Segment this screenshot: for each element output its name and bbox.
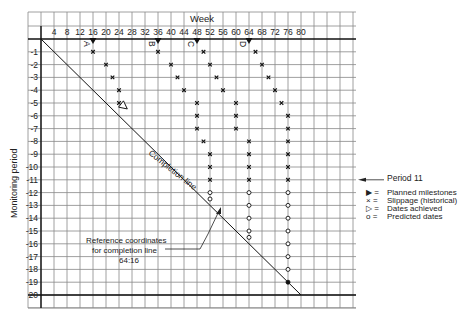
predicted-date-icon — [286, 255, 290, 259]
y-axis-title: Monitoring period — [9, 148, 19, 218]
reference-label-line3: 64:16 — [119, 256, 140, 265]
x-tick-label: 52 — [205, 27, 215, 37]
x-tick-label: 16 — [88, 27, 98, 37]
y-tick-label: -17 — [26, 252, 39, 262]
slip-chart: 48121620242832364044485256606468727680-1… — [0, 0, 473, 312]
x-tick-label: 28 — [127, 27, 137, 37]
legend-label-predicted: Predicted dates — [387, 212, 443, 221]
completion-point-icon — [286, 280, 290, 284]
y-tick-label: -11 — [26, 175, 38, 185]
legend-symbol-predicted: o = — [366, 212, 378, 221]
x-tick-label: 12 — [75, 27, 85, 37]
x-tick-label: 48 — [192, 27, 202, 37]
predicted-date-icon — [286, 203, 290, 207]
predicted-date-icon — [208, 191, 212, 195]
y-tick-label: -16 — [26, 239, 39, 249]
x-tick-label: 44 — [179, 27, 189, 37]
x-tick-label: 20 — [101, 27, 111, 37]
x-tick-label: 72 — [270, 27, 280, 37]
y-tick-label: -4 — [30, 85, 38, 95]
x-tick-label: 60 — [231, 27, 241, 37]
y-tick-label: -8 — [30, 136, 38, 146]
y-tick-label: 20 — [29, 290, 39, 300]
predicted-date-icon — [208, 197, 212, 201]
arrow-head-icon — [216, 207, 221, 214]
legend: ▶ = Planned milestones × = Slippage (his… — [366, 188, 458, 221]
milestone-letter: C — [186, 41, 196, 47]
x-tick-label: 24 — [114, 27, 124, 37]
predicted-date-icon — [286, 191, 290, 195]
y-tick-label: -10 — [26, 162, 39, 172]
predicted-date-icon — [247, 235, 251, 239]
x-tick-label: 80 — [296, 27, 306, 37]
reference-label-line2: for completion line — [92, 246, 157, 255]
predicted-date-icon — [286, 242, 290, 246]
x-tick-label: 8 — [65, 27, 70, 37]
x-tick-label: 32 — [140, 27, 150, 37]
x-tick-label: 4 — [52, 27, 57, 37]
reference-label-line1: Reference coordinates — [86, 236, 167, 245]
x-tick-label: 40 — [166, 27, 176, 37]
y-tick-label: -3 — [30, 72, 38, 82]
period-11-label: Period 11 — [387, 173, 423, 183]
predicted-date-icon — [286, 216, 290, 220]
predicted-date-icon — [247, 203, 251, 207]
y-tick-label: -7 — [30, 124, 38, 134]
y-tick-label: -9 — [30, 149, 38, 159]
x-tick-label: 36 — [153, 27, 163, 37]
x-tick-label: 64 — [244, 27, 254, 37]
y-tick-label: -2 — [30, 60, 38, 70]
y-tick-label: -18 — [26, 264, 39, 274]
chart-grid — [28, 12, 356, 308]
y-tick-label: -14 — [26, 213, 39, 223]
predicted-date-icon — [286, 229, 290, 233]
predicted-date-icon — [247, 216, 251, 220]
predicted-date-icon — [247, 229, 251, 233]
milestone-letter: A — [82, 41, 92, 47]
y-tick-label: -19 — [26, 277, 39, 287]
x-tick-label: 68 — [257, 27, 267, 37]
y-tick-label: -5 — [30, 98, 38, 108]
x-tick-label: 56 — [218, 27, 228, 37]
milestone-letter: D — [238, 41, 248, 47]
chart-annotations: Week Monitoring period Completion line P… — [9, 13, 458, 265]
y-tick-label: -12 — [26, 188, 39, 198]
x-tick-label: 76 — [283, 27, 293, 37]
arrow-head-icon — [358, 178, 366, 182]
y-tick-label: -6 — [30, 111, 38, 121]
predicted-date-icon — [247, 191, 251, 195]
reference-leader-line — [165, 211, 219, 249]
y-tick-label: -13 — [26, 200, 39, 210]
milestone-letter: B — [147, 41, 157, 47]
x-axis-title: Week — [190, 13, 214, 24]
y-tick-label: -1 — [30, 47, 38, 57]
y-tick-label: -15 — [26, 226, 39, 236]
predicted-date-icon — [286, 267, 290, 271]
